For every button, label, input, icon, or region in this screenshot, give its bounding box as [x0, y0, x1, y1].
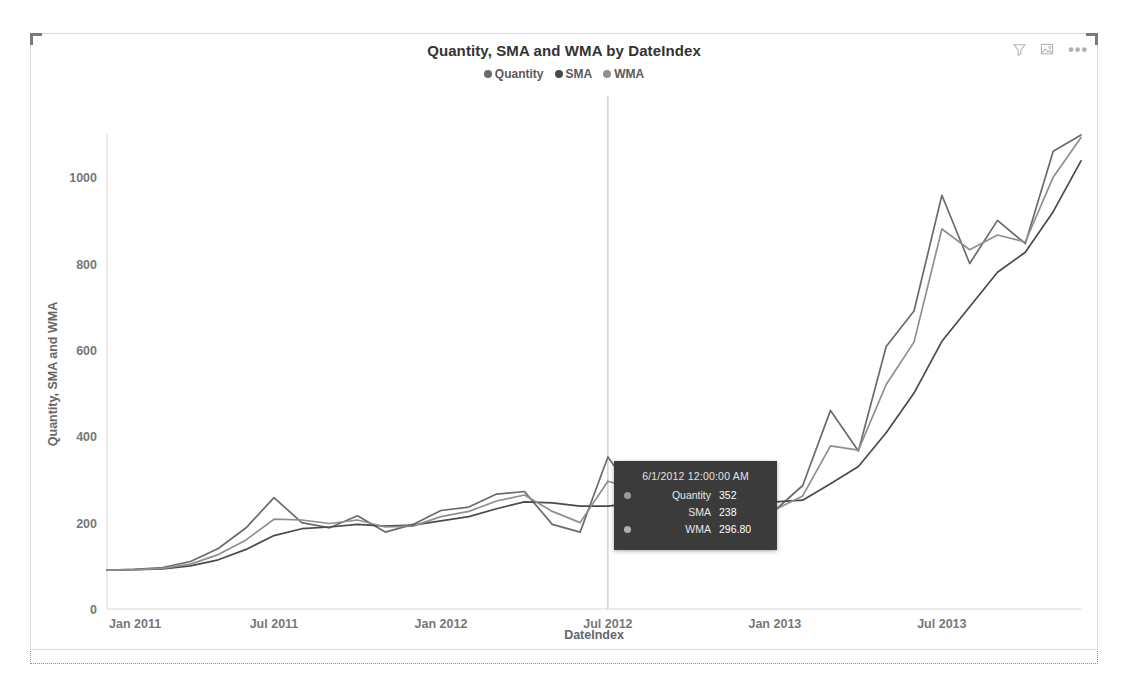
- tooltip-value-quantity: 352: [719, 489, 767, 501]
- y-tick-label: 0: [90, 603, 97, 617]
- tooltip-label-wma: WMA: [636, 523, 719, 535]
- tooltip-date: 6/1/2012 12:00:00 AM: [624, 470, 767, 482]
- y-tick-label: 600: [76, 344, 97, 358]
- y-tick-label: 400: [76, 430, 97, 444]
- tooltip-row-sma: SMA 238: [624, 506, 767, 518]
- x-axis-ticks: Jan 2011Jul 2011Jan 2012Jul 2012Jan 2013…: [109, 617, 967, 631]
- y-axis-ticks: 02004006008001000: [69, 171, 97, 617]
- tooltip-marker-wma: [624, 526, 631, 533]
- x-tick-label: Jan 2013: [748, 617, 801, 631]
- series-lines[interactable]: [107, 135, 1081, 570]
- y-tick-label: 200: [76, 517, 97, 531]
- chart-svg[interactable]: 02004006008001000 Jan 2011Jul 2011Jan 20…: [31, 34, 1099, 651]
- tooltip-row-quantity: Quantity 352: [624, 489, 767, 501]
- tooltip-label-quantity: Quantity: [636, 489, 719, 501]
- x-axis-title: DateIndex: [564, 628, 624, 642]
- tooltip-marker-sma: [624, 509, 631, 516]
- series-line-quantity[interactable]: [107, 135, 1081, 570]
- tooltip-label-sma: SMA: [636, 506, 719, 518]
- x-tick-label: Jan 2012: [415, 617, 468, 631]
- plot-area[interactable]: 02004006008001000 Jan 2011Jul 2011Jan 20…: [31, 34, 1097, 649]
- line-chart-visual[interactable]: Quantity, SMA and WMA by DateIndex Quant…: [30, 33, 1098, 650]
- hover-tooltip: 6/1/2012 12:00:00 AM Quantity 352 SMA 23…: [614, 461, 777, 550]
- x-tick-label: Jul 2011: [250, 617, 299, 631]
- y-axis-title: Quantity, SMA and WMA: [46, 302, 60, 446]
- tooltip-value-wma: 296.80: [719, 523, 767, 535]
- y-tick-label: 800: [76, 258, 97, 272]
- tooltip-value-sma: 238: [719, 506, 767, 518]
- tooltip-marker-quantity: [624, 492, 631, 499]
- x-tick-label: Jul 2013: [917, 617, 966, 631]
- x-tick-label: Jan 2011: [109, 617, 161, 631]
- tooltip-row-wma: WMA 296.80: [624, 523, 767, 535]
- y-tick-label: 1000: [69, 171, 97, 185]
